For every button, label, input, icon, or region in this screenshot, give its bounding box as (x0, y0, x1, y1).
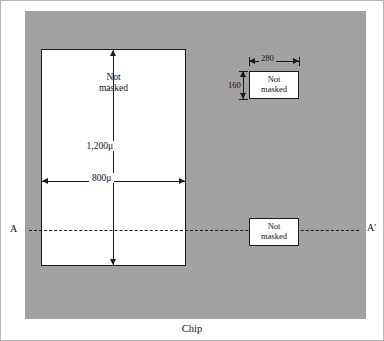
arrow-down-icon (240, 93, 246, 99)
dimension-line-vertical-large (113, 49, 114, 266)
unmasked-window-section: Not masked (249, 218, 299, 246)
unmasked-window-small: Not masked (249, 71, 299, 99)
unmasked-window-small-label: Not masked (250, 74, 298, 94)
label-line-2: masked (261, 84, 287, 94)
arrow-left-icon (42, 178, 48, 184)
figure-caption: Chip (1, 323, 383, 334)
label-line-1: Not (268, 74, 281, 84)
dimension-label-small-width: 280 (259, 53, 276, 63)
arrow-down-icon (110, 259, 116, 265)
arrow-up-icon (240, 71, 246, 77)
dimension-tick-bottom (239, 99, 248, 100)
chip-mask-diagram: Not masked 1,200μ 800μ Not masked 280 16… (0, 0, 384, 341)
dimension-tick-right (299, 57, 300, 66)
section-label-a: A (10, 223, 17, 234)
arrow-right-icon (179, 178, 185, 184)
arrow-right-icon (293, 58, 299, 64)
label-line-1: Not (268, 221, 281, 231)
dimension-label-large-height: 1,200μ (61, 141, 116, 151)
dimension-label-large-width: 800μ (89, 173, 114, 183)
dimension-label-small-height: 160 (228, 80, 241, 90)
label-line-2: masked (261, 231, 287, 241)
arrow-left-icon (249, 58, 255, 64)
arrow-up-icon (110, 50, 116, 56)
section-line-a-a-prime (29, 230, 359, 231)
section-label-a-prime: A′ (367, 222, 376, 233)
unmasked-window-section-label: Not masked (250, 221, 298, 241)
